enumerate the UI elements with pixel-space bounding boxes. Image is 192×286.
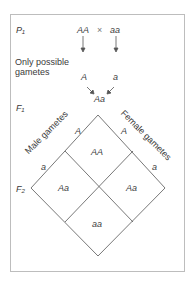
punnett-cell-right: Aa: [126, 183, 137, 193]
parent-gamete-right: a: [113, 72, 118, 82]
gametes-label-line1: Only possible: [15, 57, 69, 67]
parent-gamete-left: A: [81, 72, 87, 82]
punnett-cell-bottom: aa: [92, 219, 102, 229]
female-gamete-2: a: [152, 162, 157, 172]
parent-right-genotype: aa: [110, 25, 120, 35]
male-gamete-2: a: [41, 162, 46, 172]
generation-f2-label: F₂: [16, 184, 25, 194]
male-gamete-1: A: [75, 126, 81, 136]
female-gamete-1: A: [121, 126, 127, 136]
generation-f1-label: F₁: [16, 103, 24, 113]
punnett-cell-left: Aa: [58, 183, 69, 193]
parent-left-genotype: AA: [77, 25, 89, 35]
f1-offspring-genotype: Aa: [94, 94, 105, 104]
generation-p1-label: P₁: [16, 25, 25, 35]
punnett-cell-top: AA: [91, 147, 103, 157]
gametes-label-line2: gametes: [15, 67, 50, 77]
cross-symbol: ×: [97, 25, 102, 35]
